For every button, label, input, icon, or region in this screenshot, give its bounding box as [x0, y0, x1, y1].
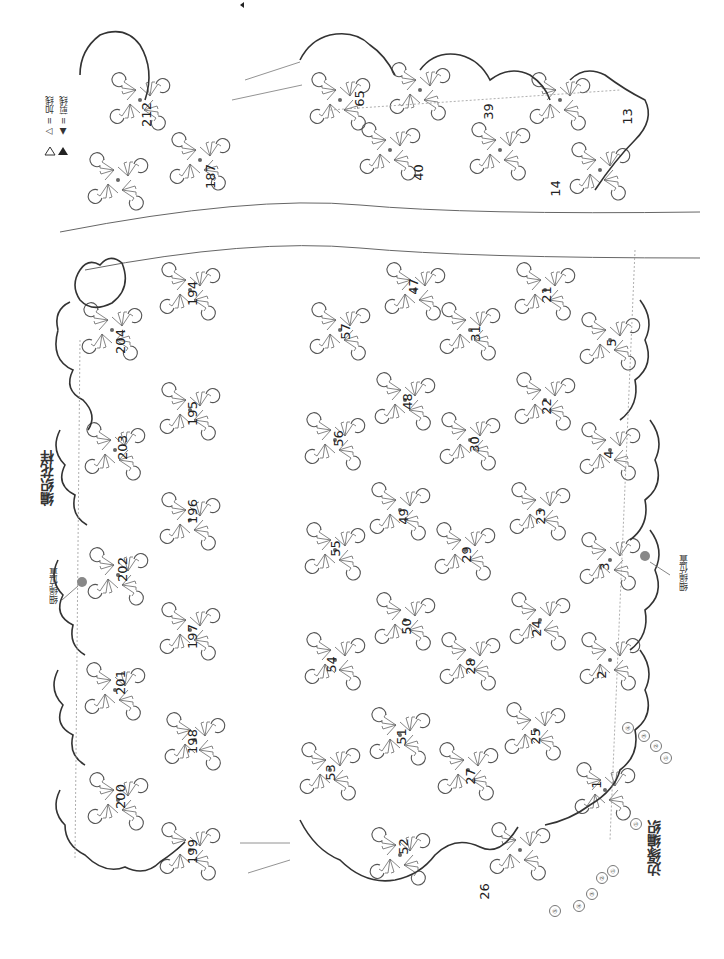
motif-number: 39 [482, 103, 495, 120]
motif-number: 25 [529, 728, 542, 745]
motif-number: 27 [464, 768, 477, 785]
motif-number: 13 [621, 108, 634, 125]
motif-number: 201 [114, 670, 127, 695]
motif-number: 56 [332, 430, 345, 447]
motif-number: 23 [534, 508, 547, 525]
motif-number: 202 [116, 557, 129, 582]
cord-position-label-left: 细绳位置 [46, 568, 59, 604]
motif-number: 54 [325, 656, 338, 673]
motif-number: 65 [353, 90, 366, 107]
edging-round-marker: ② [596, 872, 608, 884]
motif-number: 212 [140, 102, 153, 127]
motif-number: 22 [540, 398, 553, 415]
edging-round-marker: ① [630, 818, 642, 830]
motif-number: 26 [478, 883, 491, 900]
motif-number: 30 [468, 436, 481, 453]
join-yarn-symbol: ▷ [44, 127, 54, 137]
cut-yarn-symbol: ▲ [58, 127, 68, 137]
crochet-chart-canvas [0, 0, 724, 959]
legend-join-yarn: ▷ = 加线 [42, 96, 55, 137]
cut-yarn-label: = 剪线 [58, 96, 68, 124]
motif-number: 40 [412, 164, 425, 181]
edging-round-marker: ③ [638, 730, 650, 742]
motif-number: 200 [114, 784, 127, 809]
motif-number: 4 [602, 450, 615, 458]
motif-number: 52 [397, 838, 410, 855]
motif-number: 198 [186, 729, 199, 754]
motif-number: 57 [339, 323, 352, 340]
edging-round-marker: ④ [573, 900, 585, 912]
motif-number: 14 [549, 180, 562, 197]
motif-number: 21 [540, 286, 553, 303]
edging-round-marker: ② [650, 740, 662, 752]
motif-number: 50 [400, 618, 413, 635]
edging-round-marker: ④ [622, 722, 634, 734]
edging-round-marker: ① [660, 752, 672, 764]
motif-number: 55 [329, 540, 342, 557]
motif-number: 24 [530, 620, 543, 637]
join-yarn-label: = 加线 [44, 96, 54, 124]
motif-number: 47 [407, 278, 420, 295]
motif-number: 3 [598, 562, 611, 570]
motif-number: 1 [590, 780, 603, 788]
motif-number: 199 [186, 839, 199, 864]
motif-number: 49 [397, 508, 410, 525]
motif-number: 203 [116, 435, 129, 460]
pattern-title: 编织花样 [38, 450, 58, 506]
motif-number: 31 [469, 325, 482, 342]
edging-round-marker: ③ [586, 888, 598, 900]
cord-dot-left [77, 577, 87, 587]
motif-number: 204 [114, 329, 127, 354]
edging-round-marker: ① [607, 865, 619, 877]
motif-number: 5 [605, 338, 618, 346]
cord-dot-right [640, 551, 650, 561]
motif-number: 187 [204, 164, 217, 189]
edging-title: 边缘编织 [645, 820, 665, 876]
edging-round-marker: ⑤ [549, 905, 561, 917]
legend-cut-yarn: ▲ = 剪线 [56, 96, 69, 137]
motif-number: 194 [186, 281, 199, 306]
cord-position-label-right: 细绳位置 [676, 555, 689, 591]
motif-number: 195 [186, 401, 199, 426]
motif-number: 2 [595, 670, 608, 678]
motif-number: 196 [186, 499, 199, 524]
motif-number: 48 [401, 393, 414, 410]
motif-number: 197 [186, 624, 199, 649]
motif-number: 53 [324, 764, 337, 781]
motif-number: 29 [460, 546, 473, 563]
motif-number: 51 [395, 728, 408, 745]
motif-number: 28 [464, 658, 477, 675]
